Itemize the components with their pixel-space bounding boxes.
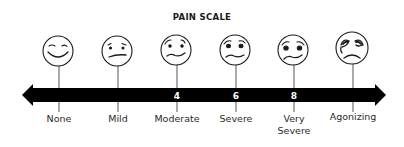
scale-number-6: 6	[233, 91, 239, 101]
arrow-right-icon	[375, 84, 386, 106]
uneasy-face-icon	[102, 36, 132, 66]
distressed-face-icon	[220, 35, 250, 65]
smiling-face-icon	[43, 36, 73, 66]
double-arrow-bar	[22, 84, 386, 106]
tick-lines	[59, 60, 353, 112]
worried-face-icon	[161, 35, 191, 65]
scale-number-8: 8	[291, 91, 297, 101]
level-label-agonizing: Agonizing	[318, 111, 388, 123]
scale-number-4: 4	[174, 91, 180, 101]
arrow-left-icon	[22, 84, 33, 106]
very-distressed-face-icon	[278, 35, 308, 65]
crying-face-icon	[336, 32, 368, 64]
level-label-very-severe-line2: Severe	[259, 125, 329, 137]
